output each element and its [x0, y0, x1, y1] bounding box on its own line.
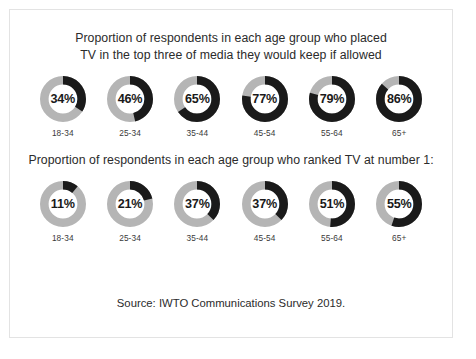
donut-gauge: 77%45-54: [231, 76, 298, 138]
donut-gauge: 46%25-34: [96, 76, 163, 138]
donut-gauge: 11%18-34: [29, 181, 96, 243]
donut-ring: 65%: [174, 76, 220, 122]
donut-value-label: 51%: [309, 181, 355, 227]
donut-ring: 55%: [376, 181, 422, 227]
age-group-label: 25-34: [119, 233, 141, 243]
donut-ring: 51%: [309, 181, 355, 227]
age-group-label: 18-34: [52, 128, 74, 138]
donut-ring: 79%: [309, 76, 355, 122]
donut-value-label: 21%: [107, 181, 153, 227]
donut-value-label: 86%: [376, 76, 422, 122]
donut-ring: 37%: [174, 181, 220, 227]
donut-value-label: 79%: [309, 76, 355, 122]
donut-value-label: 65%: [174, 76, 220, 122]
section-title-2: Proportion of respondents in each age gr…: [28, 152, 433, 169]
age-group-label: 18-34: [52, 233, 74, 243]
age-group-label: 55-64: [321, 233, 343, 243]
age-group-label: 35-44: [186, 128, 208, 138]
donut-gauge: 65%35-44: [164, 76, 231, 138]
donut-value-label: 37%: [242, 181, 288, 227]
age-group-label: 65+: [392, 128, 406, 138]
donut-gauge: 34%18-34: [29, 76, 96, 138]
section-title-1: Proportion of respondents in each age gr…: [75, 30, 387, 63]
donut-gauge: 21%25-34: [96, 181, 163, 243]
donut-value-label: 46%: [107, 76, 153, 122]
donut-value-label: 34%: [40, 76, 86, 122]
donut-row-top: 34%18-3446%25-3465%35-4477%45-5479%55-64…: [29, 76, 433, 138]
donut-gauge: 51%55-64: [298, 181, 365, 243]
donut-gauge: 37%45-54: [231, 181, 298, 243]
donut-gauge: 37%35-44: [164, 181, 231, 243]
donut-gauge: 86%65+: [366, 76, 433, 138]
age-group-label: 65+: [392, 233, 406, 243]
donut-ring: 11%: [40, 181, 86, 227]
donut-value-label: 11%: [40, 181, 86, 227]
donut-ring: 37%: [242, 181, 288, 227]
donut-gauge: 79%55-64: [298, 76, 365, 138]
source-note: Source: IWTO Communications Survey 2019.: [117, 297, 345, 309]
donut-ring: 77%: [242, 76, 288, 122]
donut-ring: 34%: [40, 76, 86, 122]
donut-ring: 46%: [107, 76, 153, 122]
age-group-label: 45-54: [254, 128, 276, 138]
age-group-label: 35-44: [186, 233, 208, 243]
age-group-label: 55-64: [321, 128, 343, 138]
donut-value-label: 77%: [242, 76, 288, 122]
donut-row-bottom: 11%18-3421%25-3437%35-4437%45-5451%55-64…: [29, 181, 433, 243]
donut-ring: 21%: [107, 181, 153, 227]
age-group-label: 25-34: [119, 128, 141, 138]
age-group-label: 45-54: [254, 233, 276, 243]
donut-gauge: 55%65+: [366, 181, 433, 243]
donut-ring: 86%: [376, 76, 422, 122]
donut-value-label: 37%: [174, 181, 220, 227]
chart-figure: Proportion of respondents in each age gr…: [9, 9, 453, 338]
donut-value-label: 55%: [376, 181, 422, 227]
